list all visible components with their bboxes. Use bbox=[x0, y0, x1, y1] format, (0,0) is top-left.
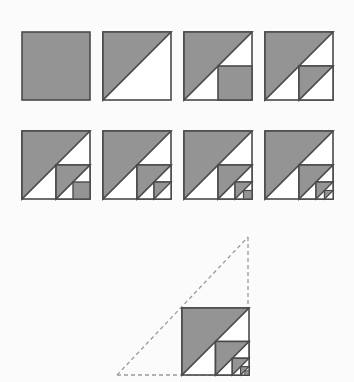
panel-1 bbox=[22, 32, 90, 100]
panel-6 bbox=[103, 131, 171, 199]
panel-5 bbox=[22, 131, 90, 199]
geometric-series-figure bbox=[0, 0, 354, 382]
panel-3-quarter-square bbox=[218, 66, 252, 100]
panel-2 bbox=[103, 32, 171, 100]
panel-7 bbox=[184, 131, 252, 199]
panel-8 bbox=[265, 131, 333, 199]
panel-limit bbox=[182, 308, 249, 375]
panel-4 bbox=[265, 32, 333, 100]
panel-3 bbox=[184, 32, 252, 100]
figure-root bbox=[0, 0, 354, 382]
panel-limit-deepest-square bbox=[245, 371, 249, 375]
panel-1-outline bbox=[22, 32, 90, 100]
panel-7-sixtyfourth-square bbox=[244, 191, 253, 200]
panel-5-sixteenth-square bbox=[73, 182, 90, 199]
